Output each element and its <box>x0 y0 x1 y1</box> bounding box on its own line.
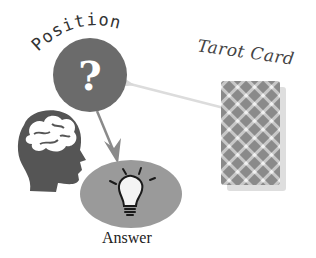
position-to-answer-arrow <box>97 111 121 164</box>
brain-head-icon <box>18 110 86 192</box>
answer-label: Answer <box>102 229 152 247</box>
card-to-position-arrow <box>130 84 224 108</box>
answer-node <box>80 160 182 228</box>
question-circle-icon: ? <box>78 52 101 99</box>
tarot-card-icon <box>221 81 286 191</box>
position-node: ? <box>53 38 127 112</box>
diagram-canvas: Position ? <box>0 0 316 258</box>
